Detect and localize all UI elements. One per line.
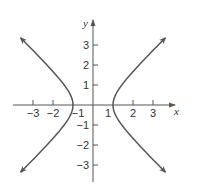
x-tick-label: −3	[27, 107, 40, 119]
x-tick-label: 1	[105, 107, 111, 119]
x-tick-label: −1	[72, 107, 85, 119]
y-tick-label: −1	[76, 119, 89, 131]
x-axis-label: x	[173, 105, 179, 117]
y-tick-label: 3	[83, 39, 89, 51]
y-axis-label: y	[82, 17, 88, 29]
hyperbola-chart: −3−2−1123−3−2−1123 x y	[0, 0, 199, 196]
y-tick-label: −2	[76, 139, 89, 151]
y-tick-label: 1	[83, 79, 89, 91]
y-tick-label: 2	[83, 59, 89, 71]
x-tick-label: 3	[150, 107, 156, 119]
x-tick-label: 2	[130, 107, 136, 119]
x-tick-label: −2	[47, 107, 60, 119]
y-tick-label: −3	[76, 159, 89, 171]
